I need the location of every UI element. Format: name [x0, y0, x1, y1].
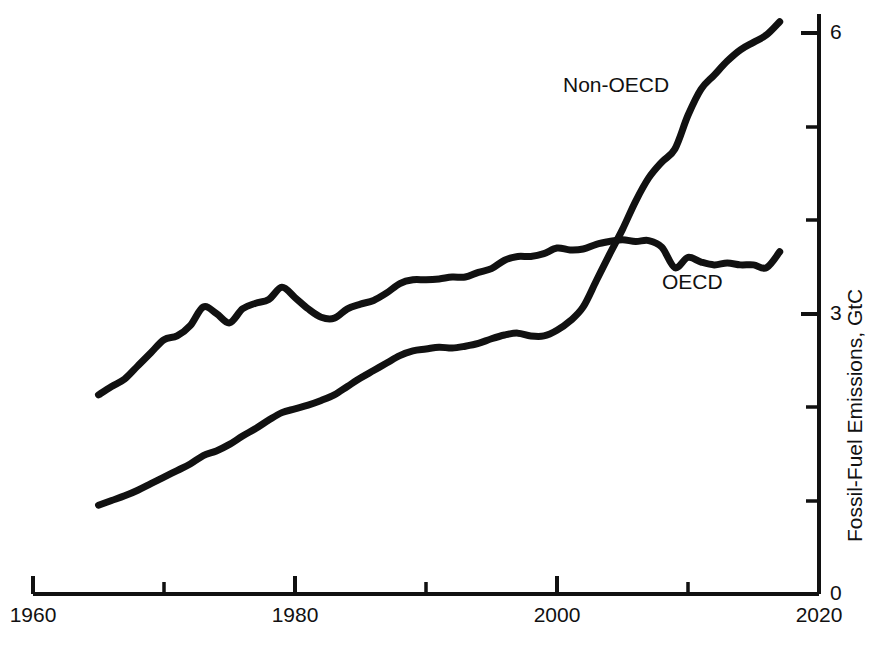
series-line-oecd	[99, 240, 780, 395]
series-label-oecd: OECD	[662, 270, 723, 294]
chart-figure: 1960 1980 2000 2020 6 3 0 Fossil-Fuel Em…	[0, 0, 890, 647]
data-series-layer	[99, 22, 780, 505]
x-tick-label-1980: 1980	[272, 603, 319, 627]
series-label-non-oecd: Non-OECD	[563, 73, 669, 97]
chart-plot-area	[0, 0, 890, 647]
x-axis-major-ticks	[33, 576, 557, 594]
x-tick-label-2000: 2000	[534, 603, 581, 627]
y-tick-label-6: 6	[830, 20, 842, 44]
x-tick-label-1960: 1960	[10, 603, 57, 627]
y-tick-label-0: 0	[830, 581, 842, 605]
x-tick-label-2020: 2020	[796, 603, 843, 627]
y-axis-major-ticks	[801, 33, 819, 314]
y-axis-title: Fossil-Fuel Emissions, GtC	[843, 122, 867, 542]
y-tick-label-3: 3	[830, 301, 842, 325]
